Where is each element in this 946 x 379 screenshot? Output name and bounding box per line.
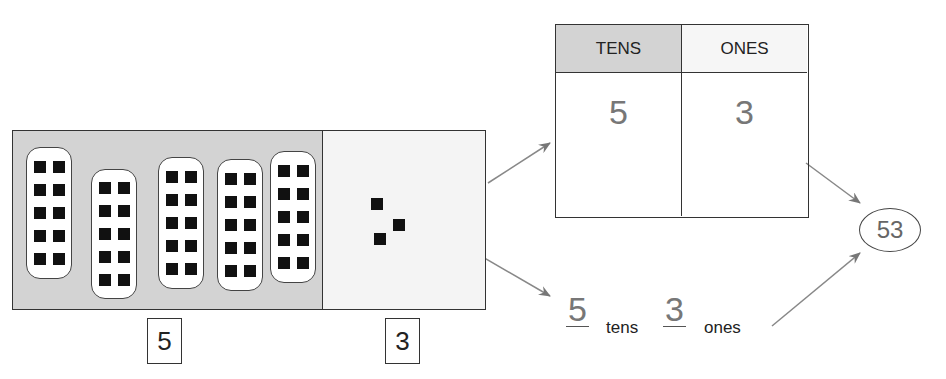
unit-cube bbox=[34, 230, 46, 242]
unit-cube bbox=[166, 171, 178, 183]
tens-rod bbox=[270, 151, 316, 283]
ones-blank: 3 bbox=[663, 292, 686, 327]
tens-rod bbox=[91, 169, 137, 299]
tens-blank: 5 bbox=[566, 292, 589, 327]
unit-cube bbox=[118, 182, 130, 194]
ones-area bbox=[323, 131, 485, 309]
unit-cube bbox=[297, 257, 309, 269]
unit-cube bbox=[297, 188, 309, 200]
unit-cube bbox=[225, 265, 237, 277]
unit-cube bbox=[185, 217, 197, 229]
unit-cube bbox=[34, 207, 46, 219]
tens-area bbox=[13, 131, 323, 309]
tens-rod bbox=[217, 159, 263, 291]
unit-cube bbox=[278, 188, 290, 200]
unit-cube bbox=[185, 194, 197, 206]
tens-word: tens bbox=[606, 318, 638, 338]
unit-cube bbox=[185, 263, 197, 275]
tens-value: 5 bbox=[556, 73, 682, 216]
unit-cube bbox=[225, 196, 237, 208]
arrow-model-to-chart bbox=[488, 143, 550, 183]
ones-digit-box: 3 bbox=[385, 318, 420, 364]
place-value-chart: TENS ONES 5 3 bbox=[555, 24, 809, 218]
result-number: 53 bbox=[859, 208, 921, 252]
unit-cube bbox=[99, 228, 111, 240]
arrow-chart-to-result bbox=[806, 163, 860, 203]
ones-header: ONES bbox=[682, 25, 807, 73]
ones-word: ones bbox=[704, 318, 741, 338]
unit-cube bbox=[244, 173, 256, 185]
base-ten-model bbox=[12, 130, 486, 310]
unit-cube bbox=[244, 265, 256, 277]
unit-cube bbox=[118, 251, 130, 263]
unit-cube bbox=[185, 240, 197, 252]
tens-rod bbox=[158, 157, 204, 289]
unit-cube bbox=[297, 165, 309, 177]
unit-cube bbox=[118, 228, 130, 240]
unit-cube bbox=[99, 251, 111, 263]
unit-cube bbox=[225, 242, 237, 254]
unit-cube bbox=[166, 240, 178, 252]
unit-cube bbox=[53, 184, 65, 196]
unit-cube bbox=[53, 207, 65, 219]
unit-cube bbox=[244, 219, 256, 231]
unit-cube bbox=[278, 211, 290, 223]
unit-cube bbox=[53, 230, 65, 242]
arrow-word-form-to-result bbox=[772, 253, 860, 326]
unit-cube bbox=[225, 219, 237, 231]
unit-cube bbox=[166, 217, 178, 229]
unit-cube bbox=[166, 263, 178, 275]
ones-cube bbox=[393, 219, 405, 231]
unit-cube bbox=[34, 253, 46, 265]
unit-cube bbox=[53, 161, 65, 173]
unit-cube bbox=[118, 274, 130, 286]
unit-cube bbox=[297, 234, 309, 246]
unit-cube bbox=[244, 196, 256, 208]
tens-rod bbox=[26, 147, 72, 279]
unit-cube bbox=[297, 211, 309, 223]
ones-cube bbox=[374, 233, 386, 245]
tens-digit-box: 5 bbox=[147, 318, 182, 364]
unit-cube bbox=[225, 173, 237, 185]
unit-cube bbox=[99, 182, 111, 194]
unit-cube bbox=[34, 161, 46, 173]
ones-value: 3 bbox=[682, 73, 807, 216]
unit-cube bbox=[278, 257, 290, 269]
unit-cube bbox=[185, 171, 197, 183]
unit-cube bbox=[118, 205, 130, 217]
ones-cube bbox=[371, 198, 383, 210]
unit-cube bbox=[278, 234, 290, 246]
unit-cube bbox=[278, 165, 290, 177]
unit-cube bbox=[99, 205, 111, 217]
tens-header: TENS bbox=[556, 25, 682, 73]
unit-cube bbox=[99, 274, 111, 286]
unit-cube bbox=[34, 184, 46, 196]
unit-cube bbox=[53, 253, 65, 265]
unit-cube bbox=[166, 194, 178, 206]
unit-cube bbox=[244, 242, 256, 254]
